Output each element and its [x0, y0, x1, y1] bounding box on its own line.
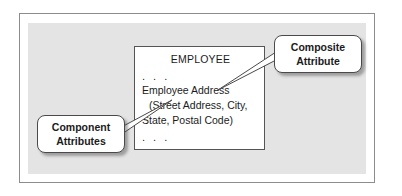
callout-composite-line-1: Composite — [291, 40, 345, 54]
callout-component-line-1: Component — [52, 120, 110, 134]
entity-ellipsis-top: . . . — [142, 70, 170, 82]
callout-component-attributes: Component Attributes — [37, 115, 125, 153]
composite-attribute-diagram: EMPLOYEE . . . Employee Address (Street … — [0, 0, 402, 196]
callout-component-line-2: Attributes — [56, 134, 106, 148]
entity-attribute-employee-address: Employee Address — [142, 84, 230, 96]
callout-composite-line-2: Attribute — [296, 54, 340, 68]
callout-composite-attribute: Composite Attribute — [274, 35, 362, 73]
